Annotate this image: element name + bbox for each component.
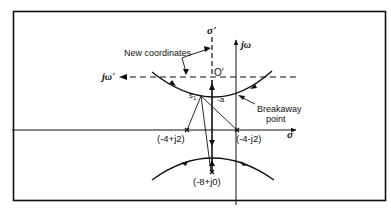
vector-s1-to-left-pole <box>187 96 201 130</box>
pole-right-label: (-4-j2) <box>236 133 261 144</box>
vector-s1-to-bottom-pole <box>201 96 211 172</box>
pole-bottom-label: (-8+j0) <box>193 176 221 187</box>
s1-label: s1 <box>189 91 197 101</box>
j-omega-label: jω <box>239 39 251 50</box>
vertical-arrow-up-icon <box>209 83 215 90</box>
pole-left-label: (-4+j2) <box>157 133 185 144</box>
new-coord-arrow-icon-2 <box>204 46 211 52</box>
new-coord-arrow-icon-1 <box>183 69 189 75</box>
sigma-prime-label: σ' <box>207 24 216 36</box>
lower-locus-arrow-left-icon <box>181 161 188 166</box>
j-omega-prime-label: jω' <box>100 71 115 82</box>
new-coordinates-label: New coordinates <box>124 48 192 58</box>
diagram-frame <box>14 12 386 201</box>
root-locus-diagram: New coordinates σ' jω jω' O' σ s1 -a Bre… <box>0 0 391 221</box>
vertical-arrow-down-icon <box>209 140 215 146</box>
minus-a-label: -a <box>217 95 225 104</box>
breakaway-label: Breakaway <box>257 104 302 114</box>
j-omega-prime-arrow-icon <box>119 74 127 80</box>
point-label: point <box>266 114 286 124</box>
o-prime-label: O' <box>214 67 224 78</box>
breakaway-arrow-icon <box>238 95 245 100</box>
